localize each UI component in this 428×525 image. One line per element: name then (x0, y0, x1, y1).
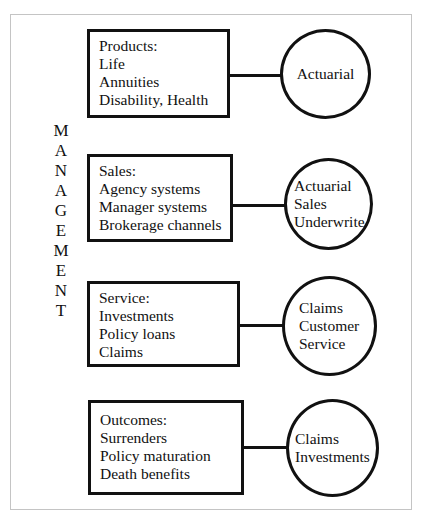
label-letter: M (50, 121, 72, 141)
label-letter: T (50, 301, 72, 321)
circle-text: Customer (299, 317, 359, 335)
box-item: Surrenders (100, 429, 241, 447)
box-item: Policy loans (99, 325, 237, 343)
label-letter: M (50, 241, 72, 261)
circle-text: Service (299, 335, 345, 353)
label-letter: N (50, 281, 72, 301)
outcomes-box: Outcomes: Surrenders Policy maturation D… (88, 400, 244, 495)
box-item: Annuities (99, 73, 227, 91)
box-item: Disability, Health (99, 91, 227, 109)
claims-customer-service-circle: Claims Customer Service (282, 276, 377, 376)
label-letter: E (50, 261, 72, 281)
box-item: Agency systems (99, 180, 230, 198)
box-title: Products: (99, 37, 227, 55)
circle-text: Claims (295, 430, 339, 448)
box-title: Service: (99, 289, 237, 307)
connector-line (240, 324, 284, 327)
box-title: Outcomes: (100, 411, 241, 429)
circle-text: Claims (299, 299, 343, 317)
connector-line (244, 446, 288, 449)
service-box: Service: Investments Policy loans Claims (87, 281, 240, 367)
circle-text: Actuarial (297, 65, 355, 83)
label-letter: G (50, 201, 72, 221)
circle-text: Investments (295, 448, 370, 466)
box-item: Brokerage channels (99, 216, 230, 234)
label-letter: A (50, 141, 72, 161)
management-vertical-label: M A N A G E M E N T (50, 121, 72, 321)
circle-text: Underwrite (294, 213, 365, 231)
products-box: Products: Life Annuities Disability, Hea… (87, 29, 230, 118)
label-letter: A (50, 181, 72, 201)
box-item: Claims (99, 343, 237, 361)
box-title: Sales: (99, 162, 230, 180)
label-letter: N (50, 161, 72, 181)
label-letter: E (50, 221, 72, 241)
box-item: Manager systems (99, 198, 230, 216)
connector-line (230, 74, 282, 77)
connector-line (233, 204, 286, 207)
box-item: Investments (99, 307, 237, 325)
circle-text: Sales (294, 195, 327, 213)
box-item: Policy maturation (100, 447, 241, 465)
circle-text: Actuarial (294, 177, 352, 195)
claims-investments-circle: Claims Investments (286, 399, 379, 497)
actuarial-sales-underwrite-circle: Actuarial Sales Underwrite (284, 158, 373, 250)
box-item: Life (99, 55, 227, 73)
box-item: Death benefits (100, 465, 241, 483)
actuarial-circle: Actuarial (280, 29, 371, 119)
sales-box: Sales: Agency systems Manager systems Br… (87, 154, 233, 242)
